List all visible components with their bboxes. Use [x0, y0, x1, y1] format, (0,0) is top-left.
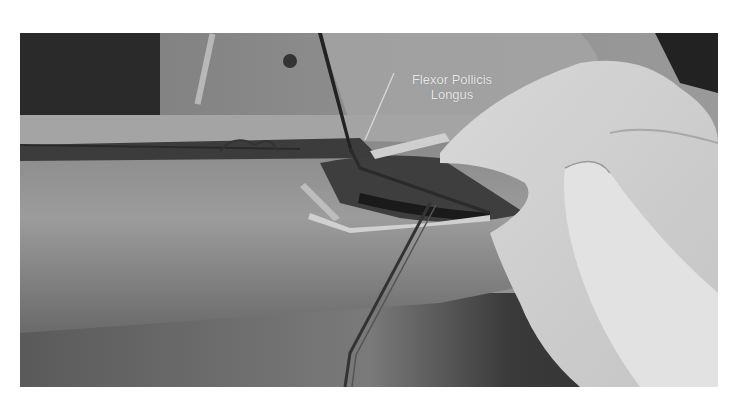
annotation-line-1: Flexor Pollicis [402, 72, 502, 87]
annotation-label: Flexor Pollicis Longus [402, 72, 502, 102]
photo-scene [20, 33, 718, 387]
anatomy-photo: Flexor Pollicis Longus [20, 33, 718, 387]
annotation-line-2: Longus [402, 87, 502, 102]
